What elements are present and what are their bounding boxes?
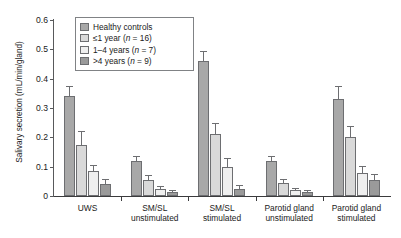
error-bar-cap	[224, 158, 231, 159]
bar	[290, 190, 301, 196]
error-bar-cap	[66, 86, 73, 87]
error-bar-line	[215, 123, 216, 135]
x-tick-label: SM/SL unstimulated	[121, 203, 188, 223]
y-tick-label: 0.4	[14, 74, 48, 83]
legend-swatch	[80, 57, 89, 65]
x-axis-separator	[323, 196, 324, 201]
legend: Healthy controls≤1 year (n = 16)1–4 year…	[75, 17, 194, 71]
legend-label: Healthy controls	[93, 23, 153, 31]
error-bar-cap	[145, 175, 152, 176]
bar	[167, 192, 178, 196]
legend-swatch	[80, 34, 89, 42]
x-tick-label: UWS	[54, 203, 121, 213]
x-tick-label: SM/SL stimulated	[188, 203, 255, 223]
error-bar-cap	[268, 156, 275, 157]
bar	[302, 192, 313, 196]
error-bar-cap	[236, 185, 243, 186]
error-bar-line	[227, 158, 228, 166]
y-tick-label: 0.6	[14, 16, 48, 25]
error-bar-cap	[347, 126, 354, 127]
error-bar-line	[69, 86, 70, 96]
bar	[131, 161, 142, 196]
bar	[76, 145, 87, 196]
bar	[198, 61, 209, 196]
bar-group	[188, 20, 255, 196]
error-bar-cap	[335, 86, 342, 87]
bar-group	[256, 20, 323, 196]
x-axis-line	[53, 196, 391, 197]
y-tick-label: 0.1	[14, 162, 48, 171]
error-bar-cap	[304, 190, 311, 191]
error-bar-cap	[292, 188, 299, 189]
bar-chart: Salivary secretion (mL/min/gland) 00.10.…	[0, 0, 401, 238]
bar	[155, 189, 166, 196]
legend-swatch	[80, 46, 89, 54]
bar	[266, 161, 277, 196]
legend-item: >4 years (n = 9)	[80, 56, 189, 68]
x-tick-label: Parotid gland unstimulated	[256, 203, 323, 223]
legend-swatch	[80, 23, 89, 31]
error-bar-cap	[212, 123, 219, 124]
error-bar-cap	[371, 174, 378, 175]
bar	[333, 99, 344, 196]
error-bar-line	[81, 131, 82, 144]
bar-group	[323, 20, 390, 196]
error-bar-line	[203, 51, 204, 61]
legend-label: 1–4 years (n = 7)	[93, 46, 156, 54]
error-bar-cap	[169, 190, 176, 191]
y-tick-label: 0.2	[14, 133, 48, 142]
bar	[210, 134, 221, 196]
y-tick-label: 0	[14, 192, 48, 201]
bar	[100, 184, 111, 196]
bar	[357, 173, 368, 196]
error-bar-line	[362, 166, 363, 173]
bar	[88, 171, 99, 196]
error-bar-line	[338, 86, 339, 99]
error-bar-cap	[359, 166, 366, 167]
error-bar-cap	[280, 179, 287, 180]
legend-label: ≤1 year (n = 16)	[93, 34, 152, 42]
legend-item: 1–4 years (n = 7)	[80, 44, 189, 56]
legend-item: ≤1 year (n = 16)	[80, 33, 189, 45]
x-axis-separator	[188, 196, 189, 201]
bar	[64, 96, 75, 196]
error-bar-cap	[200, 51, 207, 52]
bar	[234, 189, 245, 196]
y-tick-mark	[50, 196, 54, 197]
bar	[222, 167, 233, 196]
legend-item: Healthy controls	[80, 21, 189, 33]
bar	[278, 183, 289, 196]
error-bar-cap	[133, 156, 140, 157]
legend-label: >4 years (n = 9)	[93, 57, 152, 65]
bar	[369, 180, 380, 196]
error-bar-cap	[78, 131, 85, 132]
error-bar-cap	[102, 179, 109, 180]
bar	[143, 180, 154, 196]
x-axis-separator	[256, 196, 257, 201]
y-tick-label: 0.3	[14, 104, 48, 113]
x-axis-separator	[121, 196, 122, 201]
error-bar-cap	[157, 186, 164, 187]
error-bar-line	[350, 126, 351, 138]
bar	[345, 137, 356, 196]
y-tick-label: 0.5	[14, 45, 48, 54]
x-tick-label: Parotid gland stimulated	[323, 203, 390, 223]
error-bar-cap	[90, 165, 97, 166]
